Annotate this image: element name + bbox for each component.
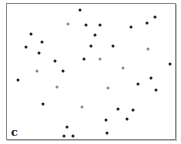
data-point-dark <box>117 108 120 111</box>
data-point-dark <box>54 60 57 63</box>
data-point-dark <box>154 16 157 19</box>
data-point-dark <box>112 45 115 48</box>
panel-label: c <box>11 127 18 138</box>
data-point-gray <box>81 106 84 109</box>
data-point-dark <box>38 52 41 55</box>
data-point-dark <box>30 33 33 36</box>
data-point-dark <box>17 79 20 82</box>
data-point-dark <box>25 46 28 49</box>
data-point-dark <box>85 24 88 27</box>
data-point-gray <box>67 23 70 26</box>
plot-frame <box>6 3 176 140</box>
data-point-dark <box>42 103 45 106</box>
data-point-dark <box>137 83 140 86</box>
data-point-gray <box>99 58 102 61</box>
data-point-dark <box>62 70 65 73</box>
data-point-dark <box>106 132 109 135</box>
data-point-gray <box>147 48 150 51</box>
data-point-dark <box>130 26 133 29</box>
data-point-dark <box>155 89 158 92</box>
data-point-dark <box>66 126 69 129</box>
data-point-dark <box>99 24 102 27</box>
data-point-dark <box>150 77 153 80</box>
data-point-gray <box>56 86 59 89</box>
data-point-dark <box>41 41 44 44</box>
data-point-gray <box>122 67 125 70</box>
data-point-dark <box>94 34 97 37</box>
data-point-dark <box>146 22 149 25</box>
data-point-gray <box>107 87 110 90</box>
data-point-dark <box>63 135 66 138</box>
data-point-dark <box>169 63 172 66</box>
data-point-gray <box>36 70 39 73</box>
data-point-dark <box>79 9 82 12</box>
data-point-dark <box>105 119 108 122</box>
data-point-dark <box>132 109 135 112</box>
data-point-dark <box>72 135 75 138</box>
data-point-dark <box>90 45 93 48</box>
data-point-dark <box>126 118 129 121</box>
data-point-dark <box>83 58 86 61</box>
